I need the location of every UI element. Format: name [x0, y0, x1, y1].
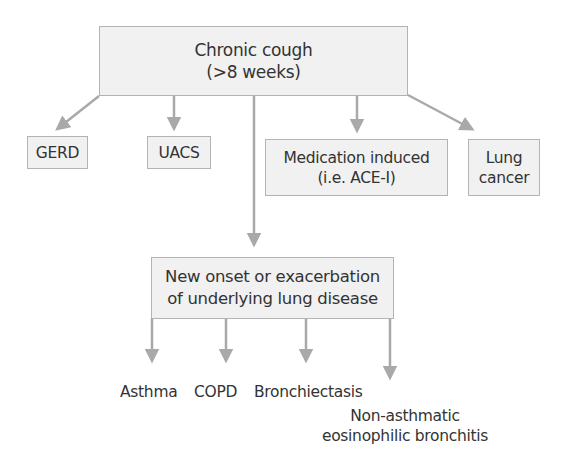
gerd-label: GERD: [36, 143, 79, 163]
label-naeb: Non-asthmatic eosinophilic bronchitis: [310, 406, 500, 446]
cause-box-medication: Medication induced (i.e. ACE-I): [265, 139, 448, 196]
arrow-root-to-lung-cancer: [408, 95, 468, 127]
lung-cancer-line2: cancer: [479, 168, 529, 188]
root-line1: Chronic cough: [194, 39, 312, 61]
cause-box-uacs: UACS: [147, 136, 211, 169]
lung-disease-box: New onset or exacerbation of underlying …: [151, 257, 394, 319]
lung-cancer-line1: Lung: [486, 148, 523, 168]
label-asthma: Asthma: [120, 382, 177, 402]
medication-line2: (i.e. ACE-I): [317, 168, 395, 188]
root-line2: (>8 weeks): [206, 61, 300, 83]
naeb-line2: eosinophilic bronchitis: [310, 426, 500, 446]
cause-box-gerd: GERD: [27, 136, 88, 169]
label-bronchiectasis: Bronchiectasis: [254, 382, 363, 402]
root-box-chronic-cough: Chronic cough (>8 weeks): [99, 26, 408, 96]
uacs-label: UACS: [158, 143, 199, 163]
medication-line1: Medication induced: [284, 148, 430, 168]
lung-disease-line2: of underlying lung disease: [167, 288, 378, 310]
naeb-line1: Non-asthmatic: [310, 406, 500, 426]
label-copd: COPD: [194, 382, 237, 402]
arrow-root-to-gerd: [61, 96, 99, 126]
lung-disease-line1: New onset or exacerbation: [165, 266, 380, 288]
cause-box-lung-cancer: Lung cancer: [468, 139, 540, 196]
